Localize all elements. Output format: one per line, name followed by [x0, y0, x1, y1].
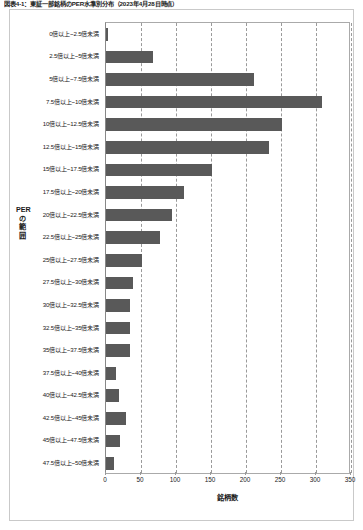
y-tick-label: 25倍以上~27.5倍未満: [10, 248, 103, 271]
bar: [106, 28, 108, 41]
bar: [106, 209, 172, 222]
y-tick-label: 45倍以上~47.5倍未満: [10, 429, 103, 452]
y-tick-label: 5倍以上~7.5倍未満: [10, 67, 103, 90]
y-axis-tick-labels: 0倍以上~2.5倍未満2.5倍以上~5倍未満5倍以上~7.5倍未満7.5倍以上~…: [10, 22, 103, 474]
x-tick-mark-350: [350, 472, 351, 475]
y-tick-label: 22.5倍以上~25倍未満: [10, 225, 103, 248]
x-tick-mark-50: [140, 472, 141, 475]
bar: [106, 141, 269, 154]
x-tick-label-100: 100: [170, 476, 181, 483]
bar: [106, 322, 130, 335]
y-tick-label: 42.5倍以上~45倍未満: [10, 406, 103, 429]
x-tick-mark-250: [280, 472, 281, 475]
plot-area: [105, 22, 350, 474]
bar: [106, 367, 116, 380]
y-tick-label: 37.5倍以上~40倍未満: [10, 361, 103, 384]
y-tick-label: 10倍以上~12.5倍未満: [10, 112, 103, 135]
bar-row: [106, 68, 349, 91]
bar-row: [106, 91, 349, 114]
x-tick-mark-300: [315, 472, 316, 475]
x-tick-label-350: 350: [345, 476, 356, 483]
bar: [106, 231, 160, 244]
bar-row: [106, 181, 349, 204]
x-axis-tick-labels: 050100150200250300350: [105, 476, 350, 488]
y-tick-label: 0倍以上~2.5倍未満: [10, 22, 103, 45]
x-tick-label-300: 300: [310, 476, 321, 483]
bar-row: [106, 362, 349, 385]
x-tick-label-150: 150: [205, 476, 216, 483]
x-tick-mark-150: [210, 472, 211, 475]
x-tick-label-0: 0: [103, 476, 107, 483]
x-axis-title: 銘柄数: [105, 492, 350, 502]
x-tick-label-200: 200: [240, 476, 251, 483]
bar-row: [106, 136, 349, 159]
y-tick-label: 15倍以上~17.5倍未満: [10, 158, 103, 181]
bar-row: [106, 317, 349, 340]
bar: [106, 412, 126, 425]
bar-row: [106, 430, 349, 453]
bar: [106, 73, 254, 86]
y-tick-label: 35倍以上~37.5倍未満: [10, 338, 103, 361]
bar-row: [106, 46, 349, 69]
bar-row: [106, 385, 349, 408]
y-tick-label: 20倍以上~22.5倍未満: [10, 203, 103, 226]
bar-row: [106, 339, 349, 362]
x-tick-label-50: 50: [136, 476, 143, 483]
bar-row: [106, 294, 349, 317]
figure-caption: 図表4-1：東証一部銘柄のPER水準別分布（2023年4月28日時点）: [4, 0, 359, 8]
y-tick-label: 32.5倍以上~35倍未満: [10, 316, 103, 339]
y-tick-label: 47.5倍以上~50倍未満: [10, 451, 103, 474]
bar-row: [106, 23, 349, 46]
bar-row: [106, 452, 349, 475]
y-tick-label: 17.5倍以上~20倍未満: [10, 180, 103, 203]
bar-series: [106, 23, 349, 473]
bar-row: [106, 204, 349, 227]
gridline-350: [351, 23, 352, 473]
bar-row: [106, 113, 349, 136]
bar: [106, 277, 133, 290]
bar-row: [106, 407, 349, 430]
bar: [106, 254, 142, 267]
bar: [106, 389, 119, 402]
y-tick-label: 40倍以上~42.5倍未満: [10, 384, 103, 407]
bar: [106, 457, 114, 470]
y-tick-label: 7.5倍以上~10倍未満: [10, 90, 103, 113]
bar: [106, 299, 130, 312]
bar: [106, 164, 212, 177]
bar: [106, 96, 322, 109]
bar: [106, 186, 184, 199]
bar: [106, 344, 130, 357]
bar-row: [106, 272, 349, 295]
y-tick-label: 27.5倍以上~30倍未満: [10, 271, 103, 294]
y-tick-label: 12.5倍以上~15倍未満: [10, 135, 103, 158]
x-tick-label-250: 250: [275, 476, 286, 483]
bar-row: [106, 249, 349, 272]
figure-frame: PERの範囲 0倍以上~2.5倍未満2.5倍以上~5倍未満5倍以上~7.5倍未満…: [9, 9, 354, 521]
bar: [106, 51, 153, 64]
x-tick-mark-0: [105, 472, 106, 475]
x-tick-mark-100: [175, 472, 176, 475]
y-tick-label: 2.5倍以上~5倍未満: [10, 45, 103, 68]
bar: [106, 435, 120, 448]
y-tick-label: 30倍以上~32.5倍未満: [10, 293, 103, 316]
bar-row: [106, 159, 349, 182]
bar: [106, 118, 282, 131]
chart-page: 図表4-1：東証一部銘柄のPER水準別分布（2023年4月28日時点） PERの…: [0, 0, 363, 530]
bar-row: [106, 226, 349, 249]
x-tick-mark-200: [245, 472, 246, 475]
